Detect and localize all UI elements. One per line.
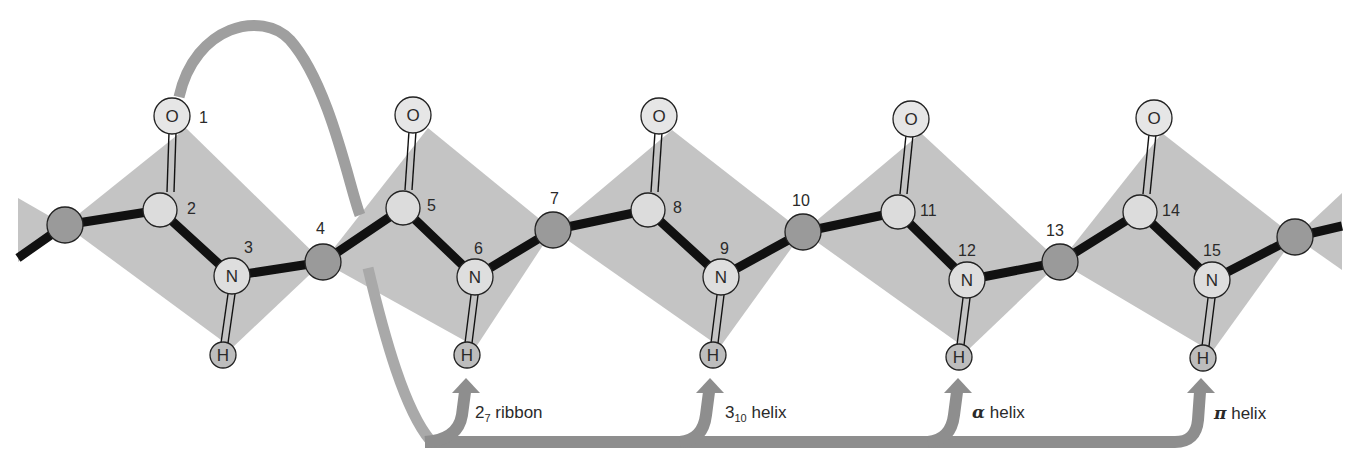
atom-number-8: 8 bbox=[673, 199, 682, 216]
atom-number-11: 11 bbox=[920, 202, 937, 219]
hydrogen-symbol: H bbox=[1197, 349, 1209, 368]
hydrogen-symbol: H bbox=[953, 348, 965, 367]
oxygen-symbol: O bbox=[406, 106, 419, 125]
atom-number-2: 2 bbox=[187, 200, 196, 217]
oxygen-symbol: O bbox=[652, 107, 665, 126]
nitrogen-symbol: N bbox=[715, 268, 727, 287]
alpha-carbon-10 bbox=[785, 214, 821, 250]
arrowhead-alpha-helix bbox=[944, 378, 972, 393]
nitrogen-symbol: N bbox=[961, 271, 973, 290]
nitrogen-12: N bbox=[949, 262, 985, 298]
label-27-ribbon: 27 ribbon bbox=[475, 403, 543, 424]
atom-number-7: 7 bbox=[550, 190, 559, 207]
oxygen-8: O bbox=[641, 98, 677, 134]
atom-number-15: 15 bbox=[1203, 242, 1221, 259]
hydrogen-symbol: H bbox=[707, 346, 719, 365]
hydrogen-6: H bbox=[454, 342, 480, 368]
atom-number-5: 5 bbox=[427, 197, 436, 214]
oxygen-symbol: O bbox=[165, 107, 178, 126]
nitrogen-3: N bbox=[214, 258, 250, 294]
alpha-carbon-4 bbox=[305, 244, 341, 280]
hydrogen-3: H bbox=[210, 342, 236, 368]
oxygen-1: O bbox=[154, 98, 190, 134]
label-pi-helix: π helix bbox=[1213, 403, 1267, 423]
nitrogen-15: N bbox=[1194, 262, 1230, 298]
oxygen-symbol: O bbox=[1147, 109, 1160, 128]
atom-number-4: 4 bbox=[316, 220, 325, 237]
arrow-branch-alpha-helix bbox=[928, 392, 957, 442]
nitrogen-symbol: N bbox=[469, 268, 481, 287]
nitrogen-symbol: N bbox=[1206, 271, 1218, 290]
diagram-canvas: O O O O O N N N bbox=[0, 0, 1356, 466]
atom-number-6: 6 bbox=[474, 240, 483, 257]
oxygen-14: O bbox=[1136, 100, 1172, 136]
alpha-carbon-left bbox=[47, 207, 83, 243]
carbonyl-carbon-5 bbox=[386, 191, 420, 225]
alpha-carbon-7 bbox=[535, 212, 571, 248]
nitrogen-9: N bbox=[703, 259, 739, 295]
carbonyl-carbon-11 bbox=[881, 195, 915, 229]
arrowhead-310-helix bbox=[696, 378, 724, 393]
atom-number-3: 3 bbox=[244, 239, 253, 256]
hydrogen-9: H bbox=[700, 342, 726, 368]
arrowhead-pi-helix bbox=[1187, 378, 1215, 393]
hydrogen-15: H bbox=[1190, 345, 1216, 371]
oxygen-11: O bbox=[893, 101, 929, 137]
hydrogen-symbol: H bbox=[217, 346, 229, 365]
atom-number-9: 9 bbox=[720, 240, 729, 257]
atom-number-10: 10 bbox=[792, 192, 810, 209]
alpha-carbon-13 bbox=[1042, 244, 1078, 280]
nitrogen-symbol: N bbox=[226, 267, 238, 286]
oxygen-symbol: O bbox=[904, 110, 917, 129]
atom-number-14: 14 bbox=[1162, 202, 1180, 219]
arrowhead-27-ribbon bbox=[452, 378, 480, 393]
carbonyl-carbon-8 bbox=[631, 193, 665, 227]
hydrogen-12: H bbox=[946, 344, 972, 370]
label-alpha-helix: α helix bbox=[972, 402, 1025, 422]
alpha-carbon-right bbox=[1277, 219, 1313, 255]
atom-number-12: 12 bbox=[958, 242, 976, 259]
oxygens: O O O O O bbox=[154, 97, 1172, 137]
atom-number-13: 13 bbox=[1046, 222, 1064, 239]
nitrogen-6: N bbox=[457, 259, 493, 295]
peptide-backbone-diagram: O O O O O N N N bbox=[0, 0, 1356, 466]
arrowheads bbox=[452, 378, 1215, 393]
carbonyl-carbon-14 bbox=[1123, 195, 1157, 229]
hydrogen-symbol: H bbox=[461, 346, 473, 365]
carbonyl-carbon-2 bbox=[143, 193, 177, 227]
label-310-helix: 310 helix bbox=[725, 403, 787, 424]
atom-number-1: 1 bbox=[199, 109, 208, 126]
helix-labels: 27 ribbon 310 helix α helix π helix bbox=[475, 402, 1267, 424]
hydrogens: H H H H H bbox=[210, 342, 1216, 371]
arrow-branch-310-helix bbox=[680, 392, 709, 442]
oxygen-5: O bbox=[395, 97, 431, 133]
